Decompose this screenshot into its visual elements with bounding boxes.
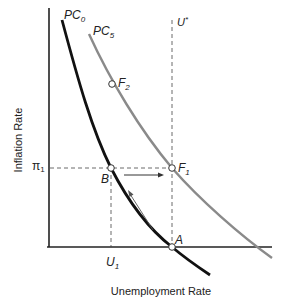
point-b (108, 165, 115, 172)
pi1-label: π1 (32, 159, 45, 174)
pc5-curve (89, 34, 272, 258)
arrow-a-to-b (130, 194, 153, 230)
point-f1 (169, 165, 176, 172)
f1-label: F1 (178, 161, 190, 177)
point-f2 (109, 81, 116, 88)
pc0-curve (62, 20, 210, 275)
arrow-head-right-icon (158, 173, 164, 178)
phillips-curve-diagram: PC0 PC5 U* F2 F1 B A π1 U1 Unemployment … (0, 0, 288, 304)
u-star-label: U* (177, 15, 189, 28)
pc0-label: PC0 (64, 8, 86, 24)
y-axis-title: Inflation Rate (12, 108, 24, 173)
pc5-label: PC5 (93, 24, 115, 40)
arrow-head-up-icon (128, 190, 134, 197)
a-label: A (174, 233, 183, 247)
b-label: B (101, 172, 109, 186)
u1-label: U1 (106, 255, 119, 271)
x-axis-title: Unemployment Rate (111, 285, 211, 297)
f2-label: F2 (118, 76, 130, 92)
